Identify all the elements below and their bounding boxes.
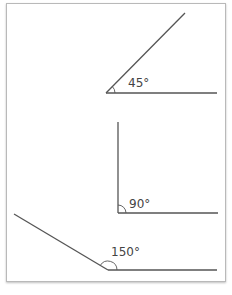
angle-150-label: 150° — [111, 245, 140, 259]
angle-45-label: 45° — [128, 76, 149, 90]
angle-150 — [14, 214, 217, 270]
angle-45 — [106, 13, 217, 93]
angle-90-label: 90° — [129, 197, 150, 211]
angles-diagram: 45° 90° 150° — [0, 0, 232, 295]
